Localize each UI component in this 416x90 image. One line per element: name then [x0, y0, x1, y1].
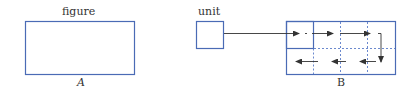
tiling-diagram — [0, 0, 416, 90]
unit-box — [197, 22, 224, 49]
tile-grid — [314, 22, 396, 74]
copy-arrows — [224, 34, 381, 63]
figure-box — [26, 22, 135, 75]
first-tile — [287, 22, 314, 49]
